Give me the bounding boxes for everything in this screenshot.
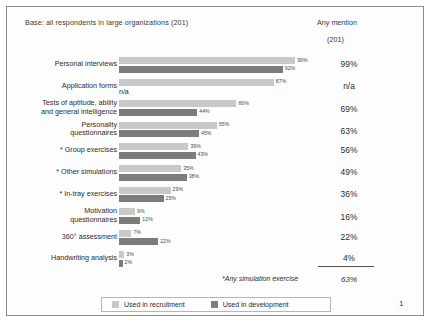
any-mention-value: 4% xyxy=(319,253,379,263)
row-label: Handwriting analysis xyxy=(17,254,117,263)
legend-swatch-recruitment-icon xyxy=(112,301,119,308)
bar-value-label: 35% xyxy=(183,165,193,171)
bar-used-in-recruitment: 35% xyxy=(119,165,181,172)
row-label-line1: Application forms xyxy=(17,82,117,91)
any-mention-value: 63% xyxy=(319,126,379,136)
row-label-line1: Personal interviews xyxy=(17,60,117,69)
any-mention-value: 99% xyxy=(319,59,379,69)
bar-used-in-development: 45% xyxy=(119,130,199,137)
bar-used-in-recruitment: 66% xyxy=(119,100,236,107)
bar-used-in-recruitment: 9% xyxy=(119,208,135,215)
bar-used-in-development: 38% xyxy=(119,174,187,181)
bar-used-in-recruitment: 39% xyxy=(119,143,188,150)
bar-chart-plot: Personal interviews99%92%99%Application … xyxy=(7,7,423,315)
row-label-line1: Handwriting analysis xyxy=(17,254,117,263)
any-mention-value: 16% xyxy=(319,212,379,222)
bar-value-label: 43% xyxy=(198,151,208,157)
row-bars: 39%43% xyxy=(119,143,196,159)
bar-na-label: n/a xyxy=(119,88,129,95)
row-label: * Group exercises xyxy=(17,146,117,155)
bar-used-in-recruitment: 29% xyxy=(119,187,171,194)
row-label: Personalityquestionnaires xyxy=(17,121,117,138)
row-label: Tests of aptitude, abilityand general in… xyxy=(17,99,117,116)
bar-value-label: 29% xyxy=(173,186,183,192)
bar-value-label: 66% xyxy=(238,100,248,106)
row-bars: 3%2% xyxy=(119,251,124,267)
row-label: Application forms xyxy=(17,82,117,91)
bar-used-in-development: 22% xyxy=(119,238,158,245)
any-mention-total-rule xyxy=(318,266,374,267)
row-label-line2: questionnaires xyxy=(17,129,117,138)
bar-used-in-development: 12% xyxy=(119,217,140,224)
bar-value-label: 44% xyxy=(199,108,209,114)
row-label: Motivationquestionnaires xyxy=(17,207,117,224)
bar-value-label: 22% xyxy=(160,238,170,244)
row-bars: 87% xyxy=(119,79,274,88)
page-number: 1 xyxy=(399,299,403,308)
row-label-line1: * Group exercises xyxy=(17,146,117,155)
row-label: 360° assessment xyxy=(17,233,117,242)
any-mention-value: 69% xyxy=(319,104,379,114)
bar-value-label: 99% xyxy=(297,57,307,63)
row-bars: 29%25% xyxy=(119,187,171,203)
bar-value-label: 38% xyxy=(189,173,199,179)
bar-used-in-recruitment: 87% xyxy=(119,79,274,86)
row-bars: 55%45% xyxy=(119,122,217,138)
row-bars: 9%12% xyxy=(119,208,140,224)
bar-used-in-development: 92% xyxy=(119,66,283,73)
bar-used-in-recruitment: 99% xyxy=(119,57,295,64)
row-bars: 7%22% xyxy=(119,230,158,246)
bar-value-label: 39% xyxy=(190,143,200,149)
bar-used-in-development: 25% xyxy=(119,195,164,202)
row-label: * In-tray exercises xyxy=(17,190,117,199)
legend-label-recruitment: Used in recruitment xyxy=(124,301,185,308)
bar-used-in-development: 43% xyxy=(119,152,196,159)
legend-item-recruitment: Used in recruitment xyxy=(112,301,185,308)
legend-item-development: Used in development xyxy=(211,301,289,308)
bar-used-in-recruitment: 55% xyxy=(119,122,217,129)
row-bars: 66%44% xyxy=(119,100,236,116)
bar-value-label: 87% xyxy=(276,78,286,84)
bar-value-label: 45% xyxy=(201,130,211,136)
bar-gap xyxy=(119,86,274,88)
row-label-line1: * In-tray exercises xyxy=(17,190,117,199)
any-mention-value: 56% xyxy=(319,145,379,155)
any-mention-value: 49% xyxy=(319,167,379,177)
bar-value-label: 12% xyxy=(142,216,152,222)
row-label: * Other simulations xyxy=(17,168,117,177)
chart-legend: Used in recruitment Used in development xyxy=(101,297,331,312)
bar-value-label: 7% xyxy=(133,229,141,235)
bar-value-label: 25% xyxy=(166,195,176,201)
row-bars: 99%92% xyxy=(119,57,295,73)
any-mention-value: n/a xyxy=(319,81,379,91)
any-mention-value: 22% xyxy=(319,232,379,242)
row-label-line2: questionnaires xyxy=(17,216,117,225)
row-bars: 35%38% xyxy=(119,165,187,181)
chart-frame: Base: all respondents in large organizat… xyxy=(6,6,424,316)
bar-value-label: 55% xyxy=(219,121,229,127)
row-label: Personal interviews xyxy=(17,60,117,69)
bar-used-in-development: 44% xyxy=(119,109,197,116)
simulation-footnote-value: 63% xyxy=(319,275,379,284)
legend-swatch-development-icon xyxy=(211,301,218,308)
bar-used-in-recruitment: 7% xyxy=(119,230,131,237)
bar-used-in-recruitment: 3% xyxy=(119,251,124,258)
bar-value-label: 9% xyxy=(137,208,145,214)
bar-value-label: 2% xyxy=(125,259,133,265)
row-label-line1: * Other simulations xyxy=(17,168,117,177)
any-mention-value: 36% xyxy=(319,189,379,199)
row-label-line1: 360° assessment xyxy=(17,233,117,242)
bar-used-in-development: 2% xyxy=(119,260,123,267)
bar-value-label: 3% xyxy=(126,251,134,257)
bar-value-label: 92% xyxy=(285,65,295,71)
row-label-line2: and general intelligence xyxy=(17,108,117,117)
legend-label-development: Used in development xyxy=(223,301,289,308)
simulation-footnote: *Any simulation exercise xyxy=(222,275,298,282)
